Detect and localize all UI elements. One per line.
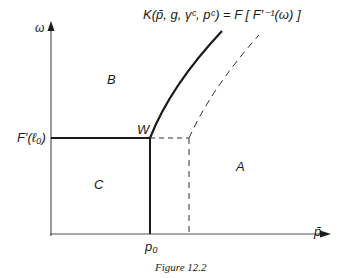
curve-k [150, 31, 222, 138]
y-axis-arrow-icon [48, 21, 55, 31]
point-w-label: W [137, 123, 149, 136]
dashed-curve [189, 35, 259, 138]
diagram-canvas [0, 0, 337, 278]
region-a-label: A [236, 160, 245, 173]
figure-caption: Figure 12.2 [155, 261, 207, 273]
region-c-label: C [94, 178, 103, 191]
x-tick-label: p₀ [145, 240, 158, 253]
x-axis-label: p̄ [314, 225, 321, 238]
region-b-label: B [107, 73, 116, 86]
y-tick-label: F′(ℓ₀) [17, 131, 46, 144]
x-axis-arrow-icon [320, 231, 331, 238]
curve-label: K(p̄, g, γᶜ, pᶜ) = F [ F′⁻¹(ω) ] [143, 8, 301, 21]
y-axis-label: ω [35, 22, 44, 34]
